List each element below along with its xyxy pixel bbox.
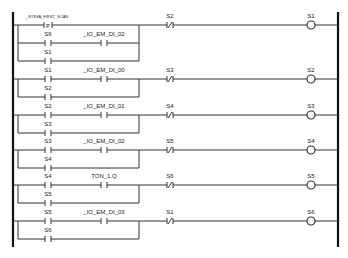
- rung-1: P_SYSVA_FIRST_SCANS2S1S6_IO_EM_DI_02S1: [13, 13, 338, 64]
- nc-contact-s1[interactable]: [167, 218, 173, 224]
- coil-s2[interactable]: [307, 75, 315, 83]
- nc-contact-label: S5: [166, 138, 174, 144]
- branch-contact[interactable]: [45, 200, 51, 206]
- coil-label: S6: [307, 209, 315, 215]
- branch-contact-label: S6: [44, 31, 52, 37]
- contact-label: S2: [44, 103, 52, 109]
- contact-label: S3: [44, 138, 52, 144]
- contact-label: S4: [44, 173, 52, 179]
- branch-contact[interactable]: [45, 40, 51, 46]
- ladder-diagram: P_SYSVA_FIRST_SCANS2S1S6_IO_EM_DI_02S1S1…: [0, 0, 348, 258]
- contact-label: _IO_EM_DI_02: [82, 31, 125, 37]
- nc-contact-label: S6: [166, 173, 174, 179]
- coil-label: S3: [307, 103, 315, 109]
- contact-s2[interactable]: [45, 112, 51, 118]
- contact-label: S1: [44, 67, 52, 73]
- nc-contact-label: S1: [166, 209, 174, 215]
- branch-contact[interactable]: [45, 94, 51, 100]
- nc-contact-s6[interactable]: [167, 182, 173, 188]
- contact-series[interactable]: [101, 218, 107, 224]
- coil-label: S5: [307, 173, 315, 179]
- nc-contact-s5[interactable]: [167, 147, 173, 153]
- contact-s4[interactable]: [45, 182, 51, 188]
- nc-contact-s4[interactable]: [167, 112, 173, 118]
- nc-contact-label: S3: [166, 67, 174, 73]
- contact-label: TON_1.Q: [91, 173, 117, 179]
- contact-series[interactable]: [101, 112, 107, 118]
- contact-label: _SYSVA_FIRST_SCAN: [25, 14, 68, 19]
- contact-s3[interactable]: [45, 147, 51, 153]
- svg-text:P: P: [46, 23, 50, 29]
- coil-s1[interactable]: [307, 21, 315, 29]
- branch-series-contact[interactable]: [101, 40, 107, 46]
- contact-s1[interactable]: [45, 76, 51, 82]
- nc-contact-label: S2: [166, 13, 174, 19]
- nc-contact-s2[interactable]: [167, 22, 173, 28]
- coil-label: S4: [307, 138, 315, 144]
- branch-contact-label: S6: [44, 227, 52, 233]
- branch-contact[interactable]: [45, 236, 51, 242]
- rung-3: S2_IO_EM_DI_01S4S3S3: [13, 103, 338, 136]
- nc-contact-label: S4: [166, 103, 174, 109]
- branch-contact[interactable]: [45, 58, 51, 64]
- coil-s6[interactable]: [307, 217, 315, 225]
- branch-contact-label: S1: [44, 49, 52, 55]
- contact-series[interactable]: [101, 147, 107, 153]
- contact-series[interactable]: [101, 182, 107, 188]
- contact-label: _IO_EM_DI_01: [82, 103, 125, 109]
- rung-2: S1_IO_EM_DI_00S3S2S2: [13, 67, 338, 100]
- rung-5: S4TON_1.QS6S5S5: [13, 173, 338, 206]
- coil-s4[interactable]: [307, 146, 315, 154]
- contact-label: _IO_EM_DI_02: [82, 138, 125, 144]
- coil-s3[interactable]: [307, 111, 315, 119]
- contact-series[interactable]: [101, 76, 107, 82]
- branch-contact[interactable]: [45, 130, 51, 136]
- contact-s5[interactable]: [45, 218, 51, 224]
- contact-label: _IO_EM_DI_03: [82, 209, 125, 215]
- coil-label: S1: [307, 13, 315, 19]
- rising-edge-contact[interactable]: P: [44, 22, 52, 29]
- branch-contact-label: S5: [44, 191, 52, 197]
- contact-label: _IO_EM_DI_00: [82, 67, 125, 73]
- coil-label: S2: [307, 67, 315, 73]
- branch-contact-label: S3: [44, 121, 52, 127]
- branch-contact-label: S2: [44, 85, 52, 91]
- rung-6: S5_IO_EM_DI_03S1S6S6: [13, 209, 338, 242]
- coil-s5[interactable]: [307, 181, 315, 189]
- branch-contact[interactable]: [45, 165, 51, 171]
- rung-4: S3_IO_EM_DI_02S5S4S4: [13, 138, 338, 171]
- branch-contact-label: S4: [44, 156, 52, 162]
- contact-label: S5: [44, 209, 52, 215]
- nc-contact-s3[interactable]: [167, 76, 173, 82]
